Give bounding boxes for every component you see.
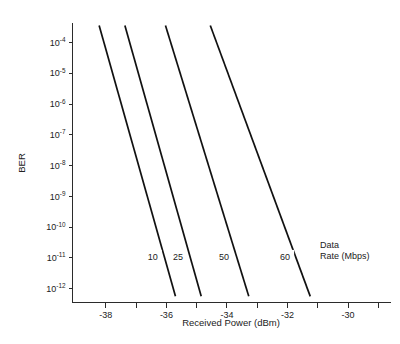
x-tick-label--32: -32 [281, 310, 294, 320]
y-tick-label--9: 10-9 [50, 190, 66, 202]
y-tick-label--12: 10-12 [46, 282, 66, 294]
series-line-25 [125, 26, 201, 297]
x-tick-label--36: -36 [160, 310, 173, 320]
y-tick-label-base: 10-7 [50, 128, 66, 140]
x-tick-label--38: -38 [99, 310, 112, 320]
y-tick-label--8: 10-8 [50, 159, 66, 171]
series-label-text: 25 [173, 252, 183, 262]
y-tick-label-base: 10-11 [47, 251, 66, 263]
y-tick-labels: 10-410-510-610-710-810-910-1010-1110-12 [46, 36, 66, 294]
series-label-text: 10 [148, 252, 158, 262]
series-line-10 [99, 26, 175, 297]
y-tick-label--7: 10-7 [50, 128, 66, 140]
series-label-60: 60 [276, 250, 294, 263]
y-axis-title: BER [16, 153, 27, 173]
y-tick-label--10: 10-10 [46, 221, 66, 233]
series-label-text: 50 [219, 252, 229, 262]
y-tick-label-base: 10-8 [50, 159, 66, 171]
series-label-50: 50 [215, 250, 233, 263]
chart-canvas: 10-410-510-610-710-810-910-1010-1110-12 … [0, 0, 400, 344]
y-tick-label--5: 10-5 [50, 67, 66, 79]
y-tick-label-base: 10-10 [46, 221, 66, 233]
ber-vs-received-power-chart: 10-410-510-610-710-810-910-1010-1110-12 … [0, 0, 400, 344]
x-tick-label--30: -30 [342, 310, 355, 320]
legend-title-line1: Data [320, 240, 339, 250]
series-label-10: 10 [144, 250, 162, 263]
y-tick-label-base: 10-4 [50, 36, 66, 48]
y-tick-label--6: 10-6 [50, 98, 66, 110]
y-tick-label--11: 10-11 [47, 251, 66, 263]
series-label-text: 60 [280, 252, 290, 262]
y-tick-label-base: 10-12 [46, 282, 66, 294]
y-tick-label-base: 10-6 [50, 98, 66, 110]
x-axis-title: Received Power (dBm) [182, 317, 280, 328]
series-label-25: 25 [169, 250, 187, 263]
y-tick-label-base: 10-5 [50, 67, 66, 79]
y-tick-label--4: 10-4 [50, 36, 66, 48]
y-tick-label-base: 10-9 [50, 190, 66, 202]
legend-title-line2: Rate (Mbps) [320, 251, 370, 261]
